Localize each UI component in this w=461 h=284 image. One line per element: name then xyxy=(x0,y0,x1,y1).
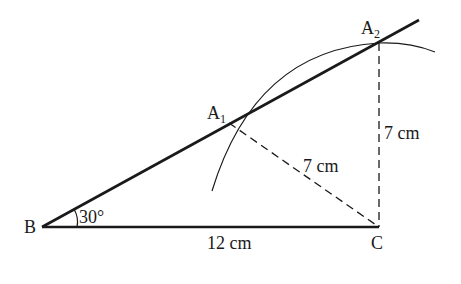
a2-subscript: 2 xyxy=(374,27,380,41)
a1-main: A xyxy=(207,103,220,123)
length-label-a2c: 7 cm xyxy=(384,124,420,142)
point-label-c: C xyxy=(371,234,383,252)
a2-main: A xyxy=(361,18,374,38)
point-label-a1: A1 xyxy=(207,104,226,125)
point-label-a2: A2 xyxy=(361,19,380,40)
a1-subscript: 1 xyxy=(220,112,226,126)
length-label-bc: 12 cm xyxy=(207,234,252,252)
point-label-b: B xyxy=(24,218,36,236)
angle-label: 30° xyxy=(79,208,104,226)
length-label-a1c: 7 cm xyxy=(303,157,339,175)
angle-mark xyxy=(74,209,78,227)
